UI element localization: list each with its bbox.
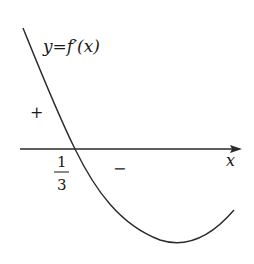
- root-numerator: 1: [57, 153, 67, 171]
- negative-sign: −: [113, 159, 126, 178]
- root-label: 1 3: [54, 153, 69, 194]
- derivative-curve: [23, 28, 234, 243]
- root-denominator: 3: [57, 176, 67, 194]
- derivative-graph: y=f′(x) x + − 1 3: [0, 0, 254, 264]
- positive-sign: +: [30, 103, 43, 122]
- curve-label: y=f′(x): [42, 36, 100, 56]
- x-axis-label: x: [226, 151, 235, 170]
